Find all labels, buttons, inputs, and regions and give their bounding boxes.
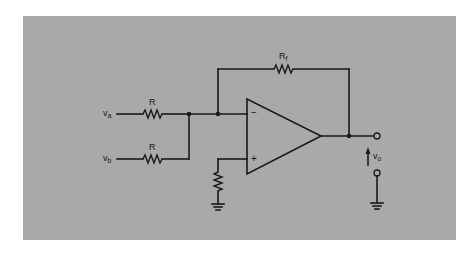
arrow-up-icon — [366, 147, 371, 154]
circuit-schematic — [0, 0, 470, 255]
output-branch — [321, 133, 383, 209]
label-rb-main: R — [149, 142, 156, 152]
label-vo-sub: o — [378, 155, 382, 162]
label-ra-main: R — [149, 97, 156, 107]
output-terminal — [374, 133, 380, 139]
label-vb: vb — [103, 154, 111, 164]
label-ra: R — [149, 98, 156, 107]
label-vb-sub: b — [108, 157, 112, 164]
label-rf-sub: f — [286, 55, 288, 62]
resistor-ra — [143, 110, 162, 118]
resistor-bias — [214, 172, 222, 191]
label-rf: Rf — [279, 52, 287, 62]
reference-terminal — [374, 170, 380, 176]
ground-icon — [371, 203, 383, 209]
label-vo: vo — [373, 152, 381, 162]
label-va: va — [103, 109, 111, 119]
label-va-sub: a — [108, 112, 112, 119]
feedback-branch — [218, 65, 349, 136]
ground-icon — [212, 204, 224, 210]
noninverting-branch — [212, 159, 247, 210]
opamp-triangle — [247, 99, 321, 174]
noninverting-input-sign: + — [251, 154, 257, 164]
label-rb: R — [149, 143, 156, 152]
junction-dot-output — [347, 134, 352, 139]
resistor-rb — [143, 155, 162, 163]
junction-dot-sum — [187, 112, 192, 117]
inverting-input-sign: − — [251, 108, 257, 118]
input-a-branch — [117, 110, 189, 118]
input-b-branch — [117, 114, 189, 163]
resistor-rf — [274, 65, 293, 73]
